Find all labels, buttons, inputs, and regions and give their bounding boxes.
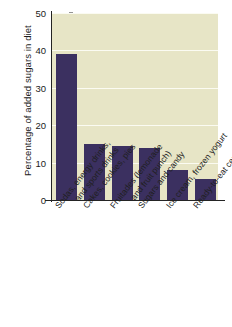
bar-chart-figure: Percentage of added sugars in diet 01020… [0,0,232,327]
y-axis-tick-labels: 01020304050 [22,8,46,200]
x-axis-category-labels: Sodas, energy drinks,and sports drinksCa… [0,200,232,327]
y-tick-label: 40 [22,45,46,56]
y-tick-label: 30 [22,82,46,93]
y-tick-label: 20 [22,120,46,131]
y-tick-label: 10 [22,157,46,168]
y-tick-label: 50 [22,8,46,19]
